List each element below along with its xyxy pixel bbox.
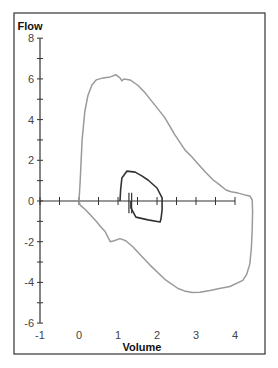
x-tick-label: 1 bbox=[115, 329, 121, 341]
x-tick-label: 3 bbox=[193, 329, 199, 341]
y-tick-label: 6 bbox=[28, 73, 34, 85]
y-tick-label: 4 bbox=[28, 114, 34, 126]
x-tick-label: -1 bbox=[35, 329, 45, 341]
x-tick-label: 2 bbox=[154, 329, 160, 341]
y-tick-label: 2 bbox=[28, 154, 34, 166]
y-tick-label: -4 bbox=[24, 276, 34, 288]
y-tick-label: 0 bbox=[28, 195, 34, 207]
x-tick-label: 4 bbox=[232, 329, 238, 341]
y-axis-title: Flow bbox=[17, 20, 42, 32]
y-tick-label: -6 bbox=[24, 317, 34, 329]
y-tick-label: 8 bbox=[28, 32, 34, 44]
x-axis-title: Volume bbox=[123, 341, 162, 353]
x-tick-label: 0 bbox=[76, 329, 82, 341]
y-tick-label: -2 bbox=[24, 236, 34, 248]
flow-volume-chart: -6-4-202468-101234 Flow Volume bbox=[0, 0, 278, 368]
chart-frame bbox=[14, 13, 265, 354]
